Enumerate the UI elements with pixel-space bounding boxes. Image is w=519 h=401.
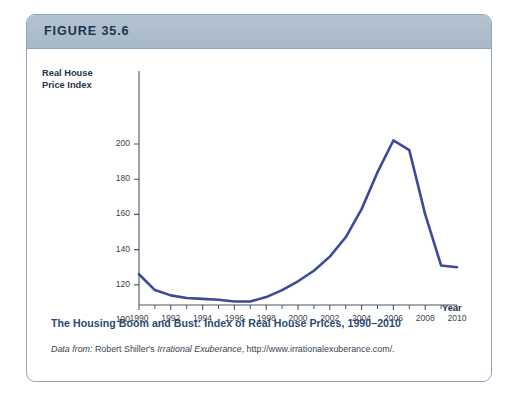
x-tick-label: 2008: [409, 313, 441, 323]
y-tick-label: 120: [116, 279, 130, 289]
figure-container: FIGURE 35.6 Real House Price Index Year …: [26, 14, 492, 382]
source-work-title: Irrational Exuberance: [157, 344, 241, 354]
x-tick-label: 2010: [441, 313, 473, 323]
figure-source-note: Data from: Robert Shiller's Irrational E…: [51, 344, 395, 354]
source-author: Robert Shiller's: [92, 344, 157, 354]
line-chart-svg: [27, 49, 492, 317]
series-line-real-house-price-index: [139, 140, 457, 301]
chart-axes: [139, 71, 457, 305]
y-tick-label: 200: [116, 138, 130, 148]
y-axis-ticks: [134, 144, 139, 317]
y-tick-label: 140: [116, 244, 130, 254]
y-tick-label: 160: [116, 208, 130, 218]
y-tick-label: 180: [116, 173, 130, 183]
source-prefix: Data from:: [51, 344, 92, 354]
figure-header-band: FIGURE 35.6: [27, 15, 491, 49]
source-url: , http://www.irrationalexuberance.com/.: [242, 344, 395, 354]
figure-caption-title: The Housing Boom and Bust: Index of Real…: [51, 317, 401, 329]
chart-plot-area: Real House Price Index Year 200180160140…: [27, 49, 492, 317]
chart-series-group: [139, 140, 457, 301]
figure-number-label: FIGURE 35.6: [44, 24, 130, 38]
x-axis-ticks: [139, 305, 457, 310]
